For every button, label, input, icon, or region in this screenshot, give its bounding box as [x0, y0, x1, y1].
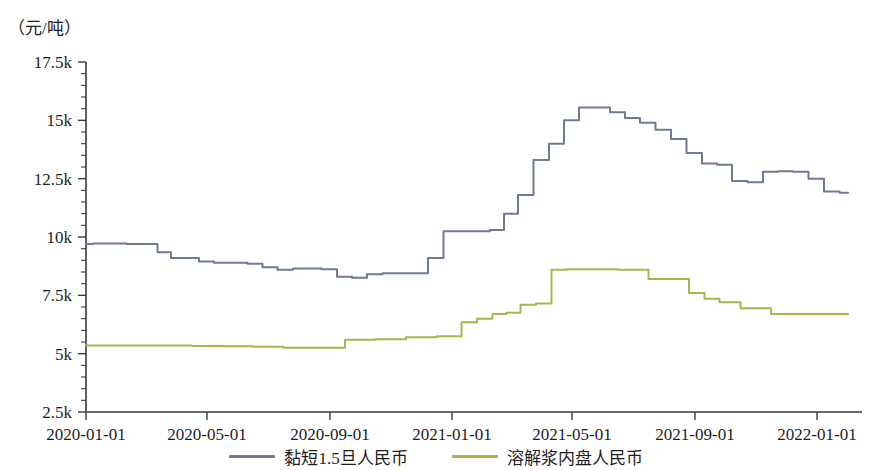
chart-legend: 黏短1.5旦人民币溶解浆内盘人民币 [0, 444, 872, 469]
y-tick-label: 7.5k [42, 286, 72, 305]
legend-swatch-icon [452, 455, 498, 458]
y-tick-label: 2.5k [42, 403, 72, 422]
x-tick-label: 2021-09-01 [655, 425, 734, 444]
x-tick-label: 2021-05-01 [532, 425, 611, 444]
series-line [86, 269, 848, 348]
y-tick-label: 15k [47, 111, 73, 130]
legend-item[interactable]: 黏短1.5旦人民币 [229, 444, 407, 469]
legend-label: 溶解浆内盘人民币 [507, 444, 643, 469]
y-tick-label: 12.5k [34, 170, 73, 189]
y-tick-label: 10k [47, 228, 73, 247]
axis-spines [86, 62, 862, 412]
y-tick-label: 17.5k [34, 53, 73, 72]
series-group [86, 108, 848, 348]
series-line [86, 108, 848, 278]
x-axis-tick-group: 2020-01-012020-05-012020-09-012021-01-01… [46, 412, 856, 444]
x-tick-label: 2020-09-01 [290, 425, 369, 444]
x-tick-label: 2020-01-01 [46, 425, 125, 444]
legend-swatch-icon [229, 455, 275, 458]
y-axis-tick-group: 2.5k5k7.5k10k12.5k15k17.5k [34, 53, 86, 422]
x-tick-label: 2022-01-01 [777, 425, 856, 444]
line-chart: （元/吨） 2.5k5k7.5k10k12.5k15k17.5k 2020-01… [0, 0, 872, 470]
chart-plot-area: 2.5k5k7.5k10k12.5k15k17.5k 2020-01-01202… [0, 0, 872, 470]
axis-spine-path [86, 62, 862, 412]
legend-label: 黏短1.5旦人民币 [284, 444, 407, 469]
x-tick-label: 2021-01-01 [412, 425, 491, 444]
y-tick-label: 5k [55, 345, 73, 364]
legend-item[interactable]: 溶解浆内盘人民币 [452, 444, 643, 469]
x-tick-label: 2020-05-01 [167, 425, 246, 444]
